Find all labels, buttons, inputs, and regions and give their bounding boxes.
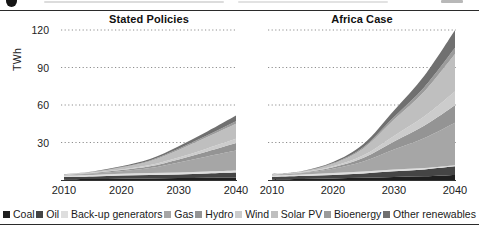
legend-label: Solar PV	[281, 208, 322, 220]
panel-title-africa-case: Africa Case	[282, 13, 442, 25]
legend-item-wind: Wind	[235, 208, 269, 220]
legend-swatch-icon	[195, 211, 202, 218]
legend-swatch-icon	[271, 211, 278, 218]
x-tick-2030-panel2: 2030	[376, 184, 412, 196]
legend-label: Other renewables	[393, 208, 476, 220]
legend-label: Hydro	[205, 208, 233, 220]
x-tick-2040-panel1: 2040	[218, 184, 254, 196]
legend-swatch-icon	[3, 211, 10, 218]
legend-swatch-icon	[164, 211, 171, 218]
x-tick-2030-panel1: 2030	[161, 184, 197, 196]
legend-item-gas: Gas	[164, 208, 193, 220]
y-tick-60: 60	[18, 99, 49, 111]
legend-item-oil: Oil	[36, 208, 59, 220]
legend-item-coal: Coal	[3, 208, 35, 220]
figure-page: Stated Policies Africa Case TWh 12090603…	[0, 0, 479, 233]
legend-label: Coal	[13, 208, 35, 220]
x-tick-2010-panel2: 2010	[254, 184, 290, 196]
panel-title-stated-policies: Stated Policies	[69, 13, 229, 25]
legend-swatch-icon	[383, 211, 390, 218]
legend-label: Gas	[174, 208, 193, 220]
y-tick-30: 30	[18, 137, 49, 149]
legend-label: Oil	[46, 208, 59, 220]
legend-swatch-icon	[36, 211, 43, 218]
y-tick-120: 120	[18, 24, 49, 36]
x-tick-2020-panel1: 2020	[103, 184, 139, 196]
legend-item-bioenergy: Bioenergy	[324, 208, 381, 220]
y-axis-unit-label: TWh	[11, 36, 25, 82]
bottom-divider	[0, 224, 479, 225]
x-tick-2040-panel2: 2040	[437, 184, 473, 196]
stacked-area-chart	[0, 0, 479, 233]
x-tick-2010-panel1: 2010	[46, 184, 82, 196]
y-tick-90: 90	[18, 62, 49, 74]
legend-swatch-icon	[61, 211, 68, 218]
x-tick-2020-panel2: 2020	[315, 184, 351, 196]
legend-item-other-renewables: Other renewables	[383, 208, 476, 220]
legend-item-solar-pv: Solar PV	[271, 208, 322, 220]
chart-legend: CoalOilBack-up generatorsGasHydroWindSol…	[3, 206, 476, 222]
legend-item-hydro: Hydro	[195, 208, 233, 220]
legend-label: Bioenergy	[334, 208, 381, 220]
legend-item-back-up-generators: Back-up generators	[61, 208, 163, 220]
legend-label: Wind	[245, 208, 269, 220]
legend-label: Back-up generators	[71, 208, 163, 220]
legend-swatch-icon	[324, 211, 331, 218]
legend-swatch-icon	[235, 211, 242, 218]
